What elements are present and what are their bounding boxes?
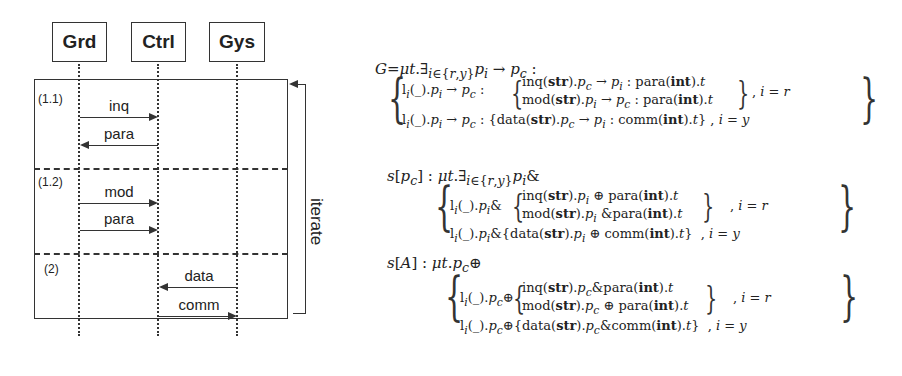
- brace-right-icon: }: [838, 180, 856, 232]
- brace-right-icon: }: [840, 270, 858, 322]
- equation-head: s[pc] : μt.∃i∈{r,y}pi&: [387, 167, 540, 188]
- brace-right-icon: }: [860, 72, 878, 124]
- equation-head: s[A] : μt.pc⊕: [387, 254, 482, 275]
- global-type-equation: G=μt.∃i∈{r,y}pi → pc : { li(_).pi → pc :…: [0, 0, 902, 376]
- brace-right-icon: }: [705, 282, 717, 314]
- brace-right-icon: }: [702, 190, 714, 222]
- brace-right-icon: }: [737, 77, 749, 109]
